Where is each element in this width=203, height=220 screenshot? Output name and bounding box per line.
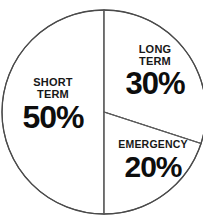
pie-chart-figure: SHORT TERM 50% LONG TERM 30% EMERGENCY 2… bbox=[0, 0, 203, 220]
slice-label-emergency-line1: EMERGENCY bbox=[107, 139, 199, 151]
slice-label-emergency: EMERGENCY 20% bbox=[107, 139, 199, 182]
slice-value-emergency: 20% bbox=[107, 152, 199, 182]
slice-label-short-term: SHORT TERM 50% bbox=[7, 77, 99, 133]
slice-value-short-term: 50% bbox=[7, 101, 99, 133]
slice-label-short-term-line1: SHORT bbox=[7, 77, 99, 89]
slice-value-long-term: 30% bbox=[114, 68, 196, 99]
slice-label-long-term: LONG TERM 30% bbox=[114, 44, 196, 99]
slice-label-long-term-line1: LONG bbox=[114, 44, 196, 56]
